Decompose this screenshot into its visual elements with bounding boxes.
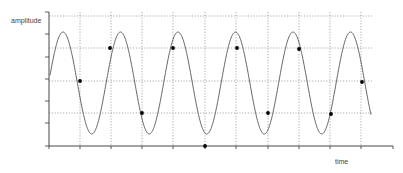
sample-dot [297,47,301,51]
sample-dot [171,46,175,50]
aliasing-chart: amplitude time [0,0,403,173]
sample-dot [140,111,144,115]
sample-points [78,46,364,148]
x-axis-label: time [335,158,348,165]
axes [45,12,393,149]
sample-dot [108,46,112,50]
sample-dot [266,111,270,115]
sample-dot [78,79,82,83]
sine-wave [50,32,371,134]
sample-dot [203,144,207,148]
grid [49,12,372,146]
sample-dot [329,112,333,116]
y-axis-label: amplitude [11,17,41,25]
sample-dot [360,80,364,84]
sample-dot [235,46,239,50]
